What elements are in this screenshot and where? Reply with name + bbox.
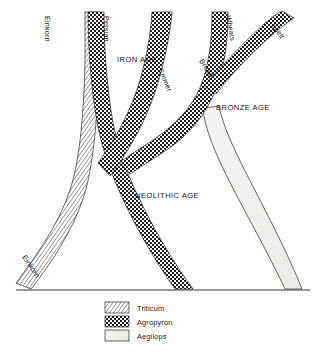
evolution-diagram-canvas: IRON AGE BRONZE AGE NEOLITHIC AGE Einkor… <box>0 0 324 354</box>
legend-label-agropyron: Agropyron <box>137 318 172 327</box>
branch-label-einkorn-top: Einkorn <box>43 16 52 42</box>
legend-swatch-agropyron <box>105 316 129 327</box>
legend-item-aegilops: Aegilops <box>105 330 167 341</box>
band-einkorn-triticum <box>16 12 99 289</box>
legend-swatch-triticum <box>105 302 129 313</box>
legend-swatch-aegilops <box>105 330 129 341</box>
band-aegilops <box>203 106 302 289</box>
era-label-iron-age: IRON AGE <box>117 55 157 64</box>
wheat-evolution-figure: IRON AGE BRONZE AGE NEOLITHIC AGE Einkor… <box>0 0 324 354</box>
legend-label-triticum: Triticum <box>137 304 164 313</box>
legend-item-triticum: Triticum <box>105 302 164 313</box>
legend-item-agropyron: Agropyron <box>105 316 172 327</box>
legend-label-aegilops: Aegilops <box>137 332 167 341</box>
legend: Triticum Agropyron Aegilops <box>105 302 172 341</box>
branch-label-persian: Persian <box>102 16 111 42</box>
era-label-neolithic-age: NEOLITHIC AGE <box>135 191 199 200</box>
era-label-bronze-age: BRONZE AGE <box>216 103 270 112</box>
